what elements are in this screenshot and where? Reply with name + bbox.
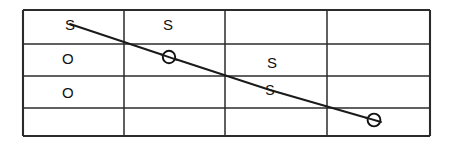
cell-letter-r1c0: O [62, 51, 74, 66]
diagram-root: S S O S O S [0, 0, 451, 146]
cell-letter-r1c2: S [267, 55, 277, 70]
cell-letter-r2c2: S [265, 83, 275, 97]
sos-grid-figure: S S O S O S [0, 0, 451, 146]
diagonal-trend-line [70, 24, 374, 120]
cell-letter-r0c0: S [65, 17, 75, 32]
cell-letter-r0c1: S [163, 17, 173, 32]
cell-letter-r2c0: O [62, 85, 74, 100]
